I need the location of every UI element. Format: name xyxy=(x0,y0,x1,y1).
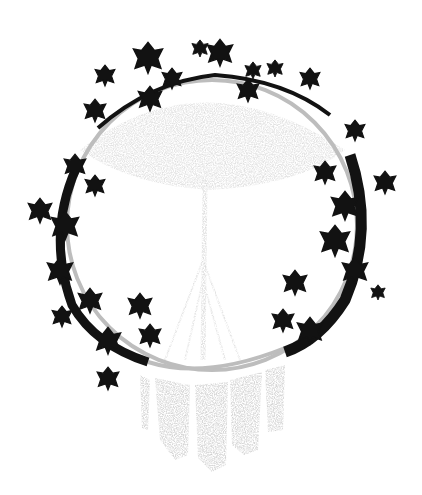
ivy-leaves xyxy=(28,39,396,390)
photo xyxy=(0,0,422,495)
hoop-wreath-illustration xyxy=(0,0,422,495)
macrame-web xyxy=(80,103,345,361)
macrame-fringe xyxy=(140,365,285,472)
